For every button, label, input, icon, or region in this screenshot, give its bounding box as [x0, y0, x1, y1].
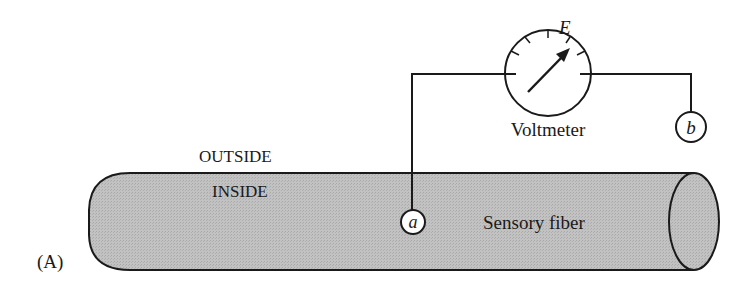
electrode-b: b: [676, 112, 706, 142]
electrode-b-label: b: [686, 117, 696, 138]
voltmeter-label: Voltmeter: [511, 119, 586, 140]
wire-b: [591, 74, 691, 112]
sensory-fiber-body: [89, 173, 693, 270]
electrode-a-label: a: [409, 212, 418, 232]
outside-label: OUTSIDE: [199, 147, 272, 166]
fiber-label: Sensory fiber: [483, 212, 586, 233]
panel-label: (A): [37, 251, 63, 273]
voltmeter-icon: [505, 30, 591, 116]
voltmeter-fiber-diagram: a b E Voltmeter OUTSIDE INSIDE Sensory f…: [0, 0, 754, 295]
voltage-symbol: E: [558, 17, 571, 38]
inside-label: INSIDE: [212, 182, 268, 201]
electrode-a: a: [401, 210, 425, 234]
fiber-end-cap: [669, 173, 719, 270]
